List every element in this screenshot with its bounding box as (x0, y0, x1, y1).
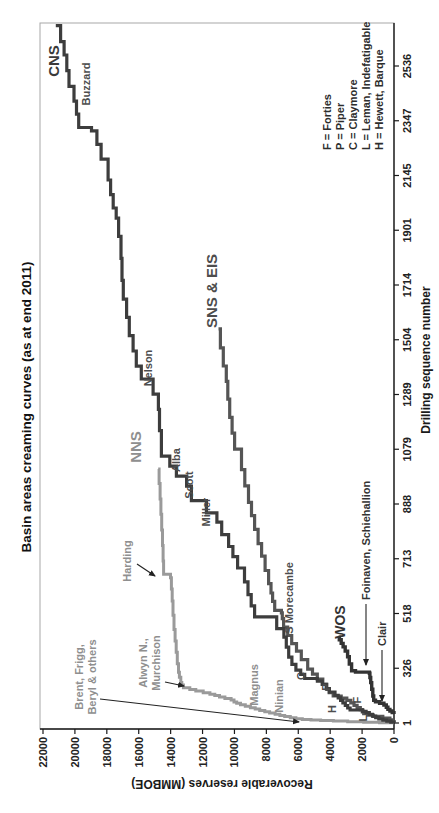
label-f: F (351, 696, 363, 703)
x-tick-label: 1289 (401, 382, 413, 406)
x-tick-label: 1901 (401, 218, 413, 242)
y-tick-label: 8000 (260, 737, 272, 761)
y-tick-label: 6000 (292, 737, 304, 761)
label-c: C (295, 672, 307, 680)
y-tick-label: 12000 (197, 737, 209, 768)
label-nelson: Nelson (142, 349, 154, 386)
x-tick-label: 1714 (401, 272, 413, 297)
creaming-curves-chart: 0200040006000800010000120001400016000180… (0, 0, 439, 813)
x-tick-label: 2347 (401, 109, 413, 133)
label-scott: Scott (183, 471, 195, 499)
legend-item-piper: P = Piper (334, 102, 346, 150)
label-beryl-others: Beryl & others (86, 639, 98, 714)
y-tick-label: 10000 (228, 737, 240, 768)
label-harding: Harding (121, 540, 133, 582)
label-alba: Alba (170, 447, 182, 472)
x-axis-title: Drilling sequence number (419, 286, 433, 434)
legend-item-forties: F = Forties (321, 94, 333, 150)
legend-item-claymore: C = Claymore (347, 79, 359, 150)
x-tick-label: 1 (401, 720, 413, 726)
label-brent-frigg: Brent, Frigg, (73, 644, 85, 709)
label-foinaven-schiehallion: Foinaven, Schiehallion (360, 481, 372, 600)
y-tick-label: 4000 (324, 737, 336, 761)
label-p: P (320, 683, 332, 690)
label-clair: Clair (376, 621, 388, 646)
label-buzzard: Buzzard (80, 63, 92, 106)
y-tick-label: 0 (388, 737, 400, 743)
label-s-morecambe: S Morecambe (283, 562, 295, 634)
label-miller: Miller (200, 497, 212, 526)
label-alwyn-n: Alwyn N., (137, 638, 149, 688)
x-tick-label: 2145 (401, 163, 413, 187)
label-l: L (357, 714, 369, 721)
x-tick-label: 888 (401, 495, 413, 513)
x-tick-label: 2536 (401, 54, 413, 78)
y-tick-label: 18000 (101, 737, 113, 768)
label-sns-eis: SNS & EIS (203, 254, 220, 328)
legend: F = Forties P = Piper C = Claymore L = L… (321, 22, 385, 150)
y-tick-label: 16000 (133, 737, 145, 768)
y-tick-label: 20000 (69, 737, 81, 768)
label-magnus: Magnus (248, 664, 260, 706)
x-tick-label: 518 (401, 604, 413, 622)
harding-arrow (137, 564, 155, 576)
x-tick-label: 713 (401, 550, 413, 568)
x-tick-label: 1079 (401, 437, 413, 461)
x-tick-label: 1504 (401, 327, 413, 352)
label-ninian: Ninian (273, 679, 285, 713)
label-wos: WOS (332, 605, 348, 638)
label-murchison: Murchison (150, 635, 162, 691)
label-cns: CNS (45, 45, 62, 77)
figure-page: 0200040006000800010000120001400016000180… (0, 0, 439, 813)
rotated-chart-container: 0200040006000800010000120001400016000180… (0, 0, 439, 813)
legend-item-leman-indefatigable: L = Leman, Indefatigable (360, 22, 372, 150)
x-tick-label: 326 (401, 659, 413, 677)
chart-title: Basin areas creaming curves (as at end 2… (19, 261, 34, 552)
legend-item-hewett-barque: H = Hewett, Barque (373, 49, 385, 150)
label-nns: NNS (127, 431, 144, 463)
y-tick-label: 22000 (37, 737, 49, 768)
y-tick-label: 14000 (165, 737, 177, 768)
label-h: H (326, 705, 338, 713)
y-axis-title: Recoverable reserves (MMBOE) (131, 777, 312, 791)
y-tick-label: 2000 (356, 737, 368, 761)
